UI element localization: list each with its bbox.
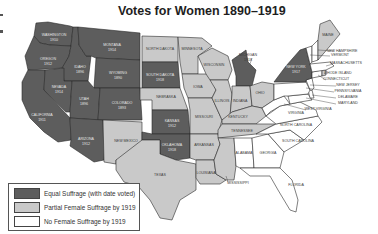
legend-swatch-none <box>14 216 40 227</box>
legend-item-partial: Partial Female Suffrage by 1919 <box>14 202 136 213</box>
state-label-tennessee: TENNESSEE <box>231 129 253 133</box>
state-label-florida: FLORIDA <box>288 183 304 187</box>
state-year-oklahoma: 1918 <box>168 148 176 152</box>
state-label-illinois: ILLINOIS <box>215 99 230 103</box>
state-label-idaho: IDAHO <box>74 65 86 69</box>
legend-label-equal: Equal Suffrage (with date voted) <box>44 190 135 197</box>
state-label-arizona: ARIZONA <box>78 137 95 141</box>
state-label-missouri: MISSOURI <box>195 115 213 119</box>
state-label-kentucky: KENTUCKY <box>228 115 248 119</box>
state-label-wisconsin: WISCONSIN <box>204 63 225 67</box>
state-label-utah: UTAH <box>79 97 89 101</box>
state-label-north-carolina: NORTH CAROLINA <box>280 123 313 127</box>
state-year-wyoming: 1890 <box>114 76 122 80</box>
state-year-colorado: 1893 <box>118 106 126 110</box>
state-label-maine: MAINE <box>322 33 334 37</box>
state-label-new-york: NEW YORK <box>286 65 306 69</box>
state-label-colorado: COLORADO <box>112 101 133 105</box>
state-label-new-mexico: NEW MEXICO <box>114 139 138 143</box>
state-label-oregon: OREGON <box>40 57 56 61</box>
state-label-west-virginia: WEST VIRGINIA <box>304 107 332 111</box>
state-label-new-jersey: NEW JERSEY <box>336 83 360 87</box>
leader-line-delaware <box>312 95 336 98</box>
state-label-montana: MONTANA <box>103 43 121 47</box>
state-label-mississippi: MISSISSIPPI <box>227 181 248 185</box>
state-year-montana: 1914 <box>108 48 116 52</box>
state-label-texas: TEXAS <box>154 173 166 177</box>
legend-label-none: No Female Suffrage by 1919 <box>44 218 126 225</box>
state-label-massachusetts: MASSACHUSETTS <box>330 61 363 65</box>
leader-line-maryland <box>306 98 336 104</box>
state-label-south-carolina: SOUTH CAROLINA <box>282 139 315 143</box>
leader-line-new-jersey <box>310 85 336 86</box>
legend-item-equal: Equal Suffrage (with date voted) <box>14 188 135 199</box>
state-nebraska[interactable] <box>140 88 188 110</box>
state-year-washington: 1910 <box>50 38 58 42</box>
state-label-nebraska: NEBRASKA <box>156 95 176 99</box>
state-label-south-dakota: SOUTH DAKOTA <box>146 73 175 77</box>
state-label-delaware: DELAWARE <box>338 95 359 99</box>
state-year-kansas: 1912 <box>168 124 176 128</box>
state-label-georgia: GEORGIA <box>260 151 277 155</box>
legend-item-none: No Female Suffrage by 1919 <box>14 216 126 227</box>
state-label-washington: WASHINGTON <box>42 33 67 37</box>
state-label-pennsylvania: PENNSYLVANIA <box>334 89 362 93</box>
state-year-idaho: 1896 <box>76 70 84 74</box>
legend-label-partial: Partial Female Suffrage by 1919 <box>44 204 136 211</box>
state-year-utah: 1896 <box>80 102 88 106</box>
state-year-nevada: 1914 <box>55 90 63 94</box>
state-label-michigan: MICHIGAN <box>239 53 257 57</box>
state-label-louisiana: LOUISIANA <box>196 171 216 175</box>
state-label-iowa: IOWA <box>193 85 203 89</box>
state-label-indiana: INDIANA <box>233 99 248 103</box>
state-label-ohio: OHIO <box>255 91 264 95</box>
legend-swatch-equal <box>14 188 40 199</box>
state-label-maryland: MARYLAND <box>338 101 358 105</box>
state-year-south-dakota: 1918 <box>156 78 164 82</box>
state-new-hampshire[interactable] <box>312 40 318 62</box>
state-label-wyoming: WYOMING <box>109 71 127 75</box>
state-label-nevada: NEVADA <box>52 85 67 89</box>
state-label-minnesota: MINNESOTA <box>181 47 203 51</box>
state-label-oklahoma: OKLAHOMA <box>162 143 183 147</box>
state-year-michigan: 1918 <box>244 58 252 62</box>
state-label-rhode-island: RHODE ISLAND <box>325 71 352 75</box>
legend-swatch-partial <box>14 202 40 213</box>
state-label-alabama: ALABAMA <box>236 151 254 155</box>
state-label-kansas: KANSAS <box>165 119 180 123</box>
state-florida[interactable] <box>240 168 298 212</box>
state-year-new-york: 1917 <box>292 70 300 74</box>
map-legend: Equal Suffrage (with date voted) Partial… <box>8 183 140 231</box>
state-label-virginia: VIRGINIA <box>288 111 304 115</box>
state-label-new-hampshire: NEW HAMPSHIRE <box>327 49 358 53</box>
state-label-arkansas: ARKANSAS <box>194 143 214 147</box>
state-label-north-dakota: NORTH DAKOTA <box>146 47 175 51</box>
state-label-vermont: VERMONT <box>331 53 350 57</box>
state-label-california: CALIFORNIA <box>31 113 53 117</box>
state-year-arizona: 1912 <box>82 142 90 146</box>
state-label-connecticut: CONNECTICUT <box>323 77 350 81</box>
state-year-california: 1911 <box>38 118 46 122</box>
state-year-oregon: 1912 <box>44 62 52 66</box>
